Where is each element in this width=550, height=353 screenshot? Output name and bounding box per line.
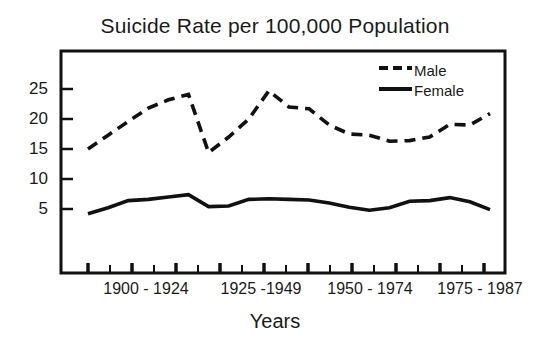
- series-line-female: [88, 195, 490, 214]
- series-line-male: [88, 91, 490, 153]
- y-tick-marks: [61, 89, 73, 209]
- chart-figure: Suicide Rate per 100,000 Population 25 2…: [0, 0, 550, 353]
- plot-frame: [61, 51, 505, 273]
- chart-plot-area: [0, 0, 550, 353]
